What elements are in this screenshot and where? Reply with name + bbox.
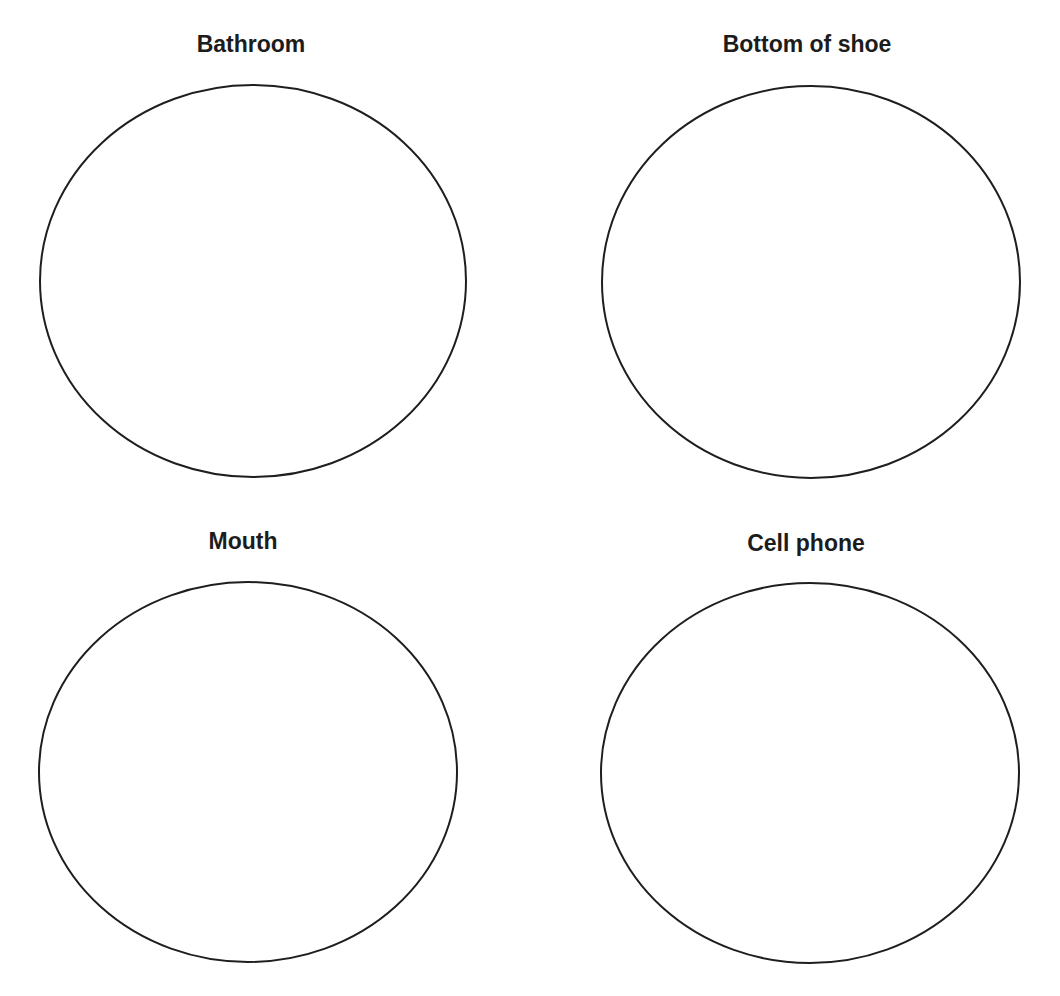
circle-cell-phone[interactable]	[601, 583, 1019, 963]
label-mouth: Mouth	[209, 527, 278, 555]
circle-bathroom[interactable]	[40, 85, 466, 477]
drawing-circles	[0, 0, 1060, 996]
label-bathroom: Bathroom	[197, 30, 306, 58]
worksheet-page: Bathroom Bottom of shoe Mouth Cell phone	[0, 0, 1060, 996]
label-cell-phone: Cell phone	[747, 529, 865, 557]
label-bottom-of-shoe: Bottom of shoe	[723, 30, 892, 58]
circle-bottom-of-shoe[interactable]	[602, 86, 1020, 478]
circle-mouth[interactable]	[39, 582, 457, 962]
